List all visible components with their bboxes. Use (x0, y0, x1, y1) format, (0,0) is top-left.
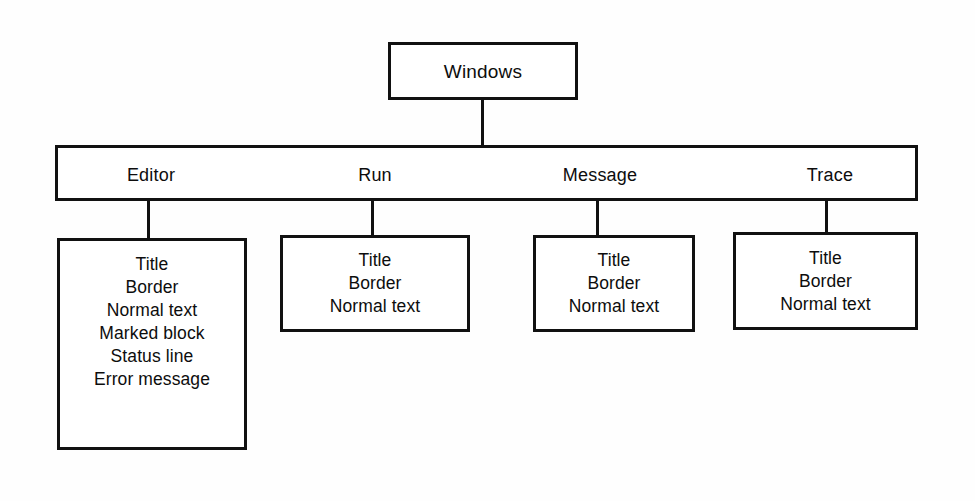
connector-bar-to-trace (825, 198, 828, 234)
root-node-label: Windows (444, 62, 522, 81)
detail-box-trace-items: Title Border Normal text (780, 247, 871, 316)
category-label-editor: Editor (127, 165, 175, 186)
detail-box-message: Title Border Normal text (533, 235, 695, 332)
category-bar: Editor Run Message Trace (55, 145, 918, 201)
window-hierarchy-diagram: Windows Editor Run Message Trace Title B… (0, 0, 975, 501)
connector-bar-to-run (371, 198, 374, 237)
detail-box-trace: Title Border Normal text (733, 232, 918, 330)
category-label-trace: Trace (807, 165, 853, 186)
connector-bar-to-editor (147, 198, 150, 240)
detail-box-run-items: Title Border Normal text (330, 249, 421, 318)
category-label-message: Message (563, 165, 637, 186)
connector-root-to-bar (481, 100, 484, 145)
detail-box-editor-items: Title Border Normal text Marked block St… (94, 253, 210, 391)
detail-box-message-items: Title Border Normal text (569, 249, 660, 318)
detail-box-run: Title Border Normal text (280, 235, 470, 332)
connector-bar-to-message (596, 198, 599, 237)
detail-box-editor: Title Border Normal text Marked block St… (57, 238, 247, 450)
category-label-run: Run (358, 165, 392, 186)
root-node-windows: Windows (388, 42, 578, 100)
